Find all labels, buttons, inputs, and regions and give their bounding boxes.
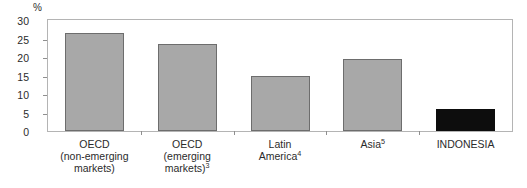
x-axis-label: OECD(emergingmarkets)3	[141, 138, 234, 175]
x-axis-label-line: markets)	[48, 162, 141, 174]
y-tick-label: 25	[17, 34, 29, 45]
x-axis-label-line: Asia5	[326, 138, 419, 150]
y-axis: 051015202530	[0, 13, 48, 137]
bar	[251, 76, 310, 132]
x-axis-label-line: OECD	[48, 138, 141, 150]
y-tick-label: 15	[17, 71, 29, 82]
footnote-marker: 3	[206, 161, 210, 170]
x-axis-label-line: (emerging	[141, 150, 234, 162]
y-tick-label: 5	[23, 108, 29, 119]
bar	[343, 59, 402, 131]
bar	[158, 44, 217, 131]
y-tick-label: 0	[23, 127, 29, 138]
x-axis-label-line: INDONESIA	[419, 138, 512, 150]
x-tick-mark	[419, 131, 420, 135]
x-axis-label: INDONESIA	[419, 138, 512, 150]
x-axis-label: OECD(non-emergingmarkets)	[48, 138, 141, 175]
x-axis-label: Asia5	[326, 138, 419, 150]
x-tick-mark	[141, 131, 142, 135]
bar	[65, 33, 124, 131]
x-axis-label-line: America4	[234, 150, 327, 162]
y-tick-label: 10	[17, 90, 29, 101]
bar-chart: % 051015202530 OECD(non-emergingmarkets)…	[0, 0, 527, 188]
y-tick-label: 30	[17, 16, 29, 27]
x-axis-label-line: Latin	[234, 138, 327, 150]
footnote-marker: 5	[381, 137, 385, 146]
x-axis-label-line: OECD	[141, 138, 234, 150]
plot-area	[48, 20, 512, 131]
x-axis-label-line: (non-emerging	[48, 150, 141, 162]
footnote-marker: 4	[297, 149, 301, 158]
x-tick-mark	[326, 131, 327, 135]
x-axis-label: LatinAmerica4	[234, 138, 327, 162]
y-axis-unit-label: %	[33, 2, 42, 13]
x-axis-label-line: markets)3	[141, 162, 234, 174]
y-tick-label: 20	[17, 53, 29, 64]
x-tick-mark	[234, 131, 235, 135]
bar	[436, 109, 495, 131]
